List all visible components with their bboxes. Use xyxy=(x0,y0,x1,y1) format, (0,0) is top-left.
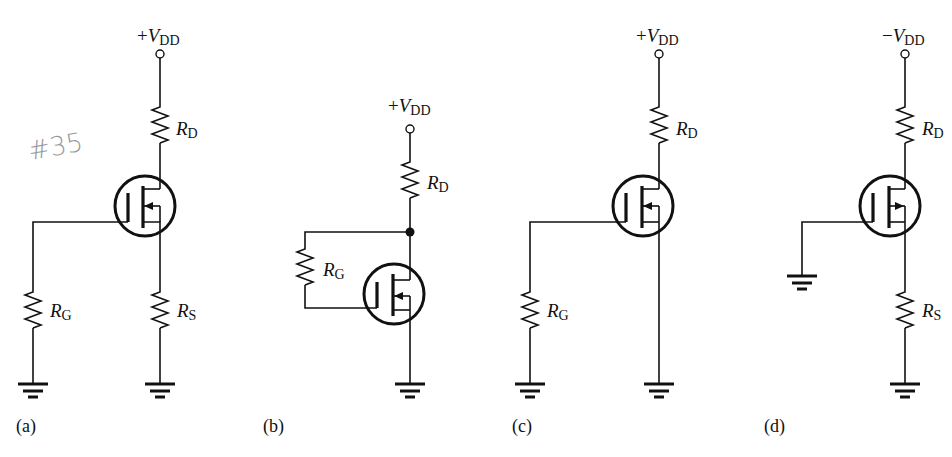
supply-label-d: −VDD xyxy=(882,25,925,48)
label-rs-d: RS xyxy=(921,300,941,323)
supply-terminal-icon xyxy=(655,50,663,58)
resistor-rd-icon xyxy=(651,105,667,143)
supply-label-a: +VDD xyxy=(137,25,180,48)
ground-icon xyxy=(787,276,817,289)
circuit-b: +VDD RD RG (b) xyxy=(263,95,449,437)
resistor-rd-icon xyxy=(402,160,418,198)
label-rd-b: RD xyxy=(426,172,449,195)
circuit-a: +VDD RD RG RS (a) xyxy=(16,25,198,437)
nmos-transistor-icon xyxy=(530,176,673,290)
label-rs-a: RS xyxy=(176,300,196,323)
resistor-rd-icon xyxy=(152,105,168,143)
resistor-rs-icon xyxy=(152,290,168,328)
caption-c: (c) xyxy=(512,416,532,437)
supply-label-c: +VDD xyxy=(636,25,679,48)
resistor-rg-icon xyxy=(522,290,538,328)
circuit-d: −VDD RD RS (d) xyxy=(764,25,944,437)
label-rd-a: RD xyxy=(175,118,198,141)
label-rd-c: RD xyxy=(675,118,698,141)
ground-icon xyxy=(644,384,674,397)
handwritten-note: #35 xyxy=(26,127,85,166)
supply-terminal-icon xyxy=(156,50,164,58)
resistor-rd-icon xyxy=(897,105,913,143)
resistor-rg-icon xyxy=(25,290,41,328)
caption-d: (d) xyxy=(764,416,785,437)
label-rg-a: RG xyxy=(49,300,72,323)
label-rd-d: RD xyxy=(921,118,944,141)
label-rg-c: RG xyxy=(546,300,569,323)
mosfet-bias-circuits-figure: #35 +VDD RD RG RS (a) +VDD xyxy=(0,0,952,457)
ground-icon xyxy=(145,384,175,397)
resistor-rg-icon xyxy=(297,247,313,285)
ground-icon xyxy=(395,384,425,397)
supply-terminal-icon xyxy=(901,50,909,58)
label-rg-b: RG xyxy=(322,259,345,282)
resistor-rs-icon xyxy=(897,290,913,328)
caption-b: (b) xyxy=(263,416,284,437)
ground-icon xyxy=(890,384,920,397)
ground-icon xyxy=(18,384,48,397)
caption-a: (a) xyxy=(16,416,36,437)
nmos-transistor-icon xyxy=(33,176,175,290)
ground-icon xyxy=(515,384,545,397)
supply-label-b: +VDD xyxy=(388,95,431,118)
circuit-c: +VDD RD RG (c) xyxy=(512,25,698,437)
supply-terminal-icon xyxy=(406,125,414,133)
pmos-transistor-icon xyxy=(802,176,920,276)
